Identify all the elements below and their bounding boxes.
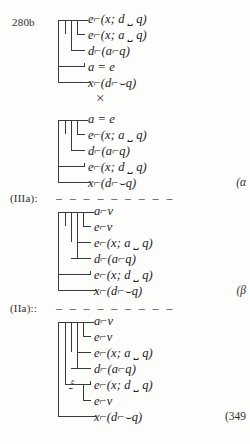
formula-text: e⌐(x; a ⎵ q) xyxy=(94,345,153,361)
tree-branch-2 xyxy=(71,20,72,50)
tree-tick-4 xyxy=(84,163,85,167)
tree-leaf-bar-3 xyxy=(77,242,91,243)
tree-branch-1 xyxy=(65,212,66,226)
tree-leaf-bar-6 xyxy=(58,290,96,291)
tree-tick-5 xyxy=(90,271,91,275)
formula-text: e⌐(x; d ⎵ q) xyxy=(94,377,153,393)
formula-text: e⌐(x; d ⎵ q) xyxy=(94,267,153,283)
equation-label-beta: (β xyxy=(236,284,246,296)
tree-leaf-bar-3 xyxy=(71,50,85,51)
formula-text: d⌐(a⌐q) xyxy=(88,143,130,159)
tree-branch-3 xyxy=(77,322,78,368)
tree-spine xyxy=(58,322,59,416)
formula-text: a⌐v xyxy=(94,203,113,219)
formula-text: d⌐(a⌐q) xyxy=(88,43,130,59)
tree-subbranch xyxy=(83,384,84,400)
tree-branch-4 xyxy=(83,322,84,336)
formula-text: x⌐(d⌐⌣q) xyxy=(94,283,142,299)
tree-leaf-bar-4 xyxy=(71,258,91,259)
epsilon-annotation-label: ε xyxy=(71,376,74,386)
tree-tick-4 xyxy=(84,63,85,67)
tree-leaf-bar-5 xyxy=(58,82,90,83)
tree-leaf-bar-5 xyxy=(58,274,91,275)
tree-spine xyxy=(58,120,59,182)
formula-text: x⌐(d⌐⌣q) xyxy=(88,175,136,191)
tree-branch-3 xyxy=(77,212,78,258)
block-label-IIa: (IIa):: xyxy=(10,302,37,314)
tree-tick-5 xyxy=(90,381,91,385)
formula-text: a⌐v xyxy=(94,313,113,329)
tree-branch-2 xyxy=(71,120,72,150)
tree-spine xyxy=(58,20,59,82)
tree-branch-1 xyxy=(65,120,66,134)
formula-text: e⌐(x; d ⎵ q) xyxy=(88,11,147,27)
formula-text: e⌐(x; d ⎵ q) xyxy=(88,159,147,175)
tree-spine xyxy=(58,212,59,290)
tree-leaf-bar-5 xyxy=(58,182,90,183)
tree-leaf-bar-2 xyxy=(83,226,91,227)
tree-branch-1 xyxy=(65,20,66,34)
tree-top-bar xyxy=(58,322,94,323)
tree-branch-2 xyxy=(71,212,72,242)
formula-text: a = e xyxy=(88,59,115,75)
formula-text: d⌐(a⌐q) xyxy=(94,361,136,377)
block-label-IIIa: (IIIa): xyxy=(10,192,38,204)
tree-branch-3 xyxy=(77,120,78,134)
tree-leaf-bar-2 xyxy=(77,134,85,135)
formula-text: x⌐(d⌐⌣q) xyxy=(94,409,142,425)
formula-text: e⌐(x; a ⎵ q) xyxy=(88,27,147,43)
tree-leaf-bar-3 xyxy=(71,150,85,151)
block-label-280b: 280b xyxy=(12,16,35,28)
tree-branch-4 xyxy=(83,212,84,226)
formula-text: e⌐(x; a ⎵ q) xyxy=(94,235,153,251)
tree-leaf-bar-4 xyxy=(58,166,85,167)
formula-text: e⌐v xyxy=(94,219,112,235)
tree-branch-2 xyxy=(71,322,72,352)
tree-leaf-bar-6 xyxy=(83,400,91,401)
formula-text: e⌐v xyxy=(94,329,112,345)
dashed-separator-IIa: – – – – – – – – – xyxy=(56,301,175,316)
formula-text: x⌐(d⌐⌣q) xyxy=(88,75,136,91)
page-number-label: (349 xyxy=(225,410,246,422)
formula-text: e⌐(x; a ⎵ q) xyxy=(88,127,147,143)
tree-leaf-bar-4 xyxy=(71,368,91,369)
formula-text: a = e xyxy=(88,111,115,127)
times-separator-symbol: × xyxy=(96,91,104,106)
tree-branch-3 xyxy=(77,20,78,34)
tree-top-bar xyxy=(58,120,88,121)
tree-top-bar xyxy=(58,212,94,213)
manuscript-page: 280b e⌐(x; d ⎵ q) e⌐(x; a ⎵ q) d⌐(a⌐q) a… xyxy=(0,0,250,444)
tree-leaf-bar-7 xyxy=(58,416,96,417)
tree-leaf-bar-2 xyxy=(83,336,91,337)
tree-top-bar xyxy=(58,20,88,21)
dashed-separator-IIIa: – – – – – – – – – xyxy=(56,191,175,206)
tree-leaf-bar-2 xyxy=(77,34,85,35)
tree-leaf-bar-3 xyxy=(77,352,91,353)
formula-text: d⌐(a⌐q) xyxy=(94,251,136,267)
equation-label-alpha: (α xyxy=(236,176,246,188)
formula-text: e⌐v xyxy=(94,393,112,409)
tree-branch-1 xyxy=(65,322,66,384)
tree-leaf-bar-4 xyxy=(58,66,85,67)
